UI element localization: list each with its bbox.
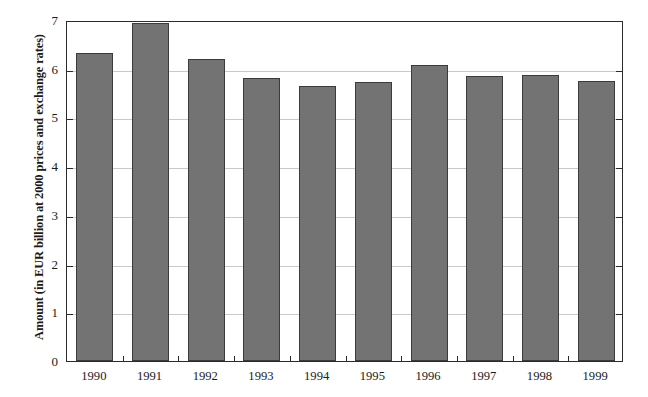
- bar-1996: [411, 65, 448, 361]
- y-tick-label-5: 5: [14, 111, 66, 124]
- y-axis-tick-labels: 01234567: [0, 21, 66, 362]
- bar-1994: [299, 86, 336, 361]
- y-tick-label-1: 1: [14, 306, 66, 319]
- y-tick-label-6: 6: [14, 63, 66, 76]
- y-tick-label-2: 2: [14, 258, 66, 271]
- x-tick-label-1997: 1997: [456, 368, 512, 384]
- y-tick-label-7: 7: [14, 14, 66, 27]
- x-tick-label-1994: 1994: [289, 368, 345, 384]
- x-tick-label-1996: 1996: [400, 368, 456, 384]
- y-tick-label-3: 3: [14, 209, 66, 222]
- bar-1999: [578, 81, 615, 361]
- x-axis-tick-labels: 1990199119921993199419951996199719981999: [66, 368, 623, 388]
- bar-1990: [76, 53, 113, 361]
- x-tick-label-1992: 1992: [177, 368, 233, 384]
- bar-chart-figure: Amount (in EUR billion at 2000 prices an…: [0, 0, 648, 397]
- y-tick-label-4: 4: [14, 160, 66, 173]
- plot-area: [66, 21, 623, 362]
- x-tick-label-1990: 1990: [66, 368, 122, 384]
- bar-1991: [132, 23, 169, 361]
- bars-layer: [67, 22, 622, 361]
- x-tick-label-1998: 1998: [512, 368, 568, 384]
- x-tick-label-1999: 1999: [567, 368, 623, 384]
- bar-1997: [466, 76, 503, 361]
- y-tick-label-0: 0: [14, 355, 66, 368]
- bar-1998: [522, 75, 559, 361]
- bar-1995: [355, 82, 392, 361]
- x-tick-label-1995: 1995: [345, 368, 401, 384]
- bar-1992: [188, 59, 225, 361]
- x-tick-label-1991: 1991: [122, 368, 178, 384]
- x-tick-label-1993: 1993: [233, 368, 289, 384]
- bar-1993: [243, 78, 280, 361]
